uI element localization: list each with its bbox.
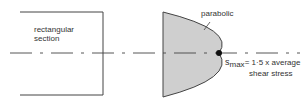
rectangular-label-line1: rectangular	[34, 25, 74, 34]
smax-label: smax= 1·5 x average	[225, 58, 300, 67]
max-stress-point	[216, 50, 222, 56]
parabolic-label: parabolic	[201, 9, 233, 18]
smax-symbol: s	[225, 57, 230, 67]
smax-equation: = 1·5 x average	[245, 58, 301, 67]
shear-stress-label: shear stress	[249, 69, 293, 78]
rectangular-label-line2: section	[34, 34, 74, 43]
rectangular-label: rectangular section	[34, 25, 74, 43]
smax-subscript: max	[230, 60, 245, 69]
shear-stress-diagram	[0, 0, 304, 105]
parabolic-stress-area	[163, 12, 222, 97]
